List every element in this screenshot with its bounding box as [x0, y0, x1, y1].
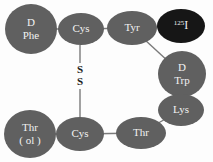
node-lys: Lys [158, 94, 204, 126]
node-label-d-trp-line2: Trp [174, 74, 190, 86]
node-iodine-125: 125I [157, 9, 205, 43]
peptide-structure-diagram: DPheCysTyr125IDTrpLysThrCysThr( ol ) SS [0, 0, 213, 162]
node-label-thr-ol-line1: Thr [22, 121, 38, 133]
node-cys-top: Cys [58, 13, 104, 45]
node-label-cys-bottom: Cys [71, 127, 88, 139]
disulfide-label-bottom: S [77, 75, 83, 87]
disulfide-label-top: S [77, 63, 83, 75]
node-label-lys: Lys [173, 103, 189, 115]
disulfide-bridge-layer: SS [77, 63, 83, 87]
node-thr-ol: Thr( ol ) [4, 110, 56, 158]
node-label-tyr: Tyr [124, 21, 139, 33]
node-cys-bottom: Cys [56, 117, 104, 151]
node-label-d-phe-line1: D [27, 16, 35, 28]
nodes-layer: DPheCysTyr125IDTrpLysThrCysThr( ol ) [4, 4, 206, 158]
node-label-d-phe-line2: Phe [23, 29, 40, 41]
element-symbol: I [184, 18, 188, 32]
node-tyr: Tyr [107, 11, 157, 45]
node-label-thr-bottom: Thr [133, 126, 149, 138]
node-thr-bottom: Thr [116, 117, 166, 149]
node-label-thr-ol-line2: ( ol ) [19, 134, 41, 147]
node-d-trp: DTrp [158, 51, 206, 97]
isotope-superscript: 125 [174, 19, 185, 27]
node-label-cys-top: Cys [72, 22, 89, 34]
diagram-canvas: DPheCysTyr125IDTrpLysThrCysThr( ol ) SS [0, 0, 213, 162]
node-d-phe: DPhe [5, 4, 57, 54]
node-label-d-trp-line1: D [178, 61, 186, 73]
